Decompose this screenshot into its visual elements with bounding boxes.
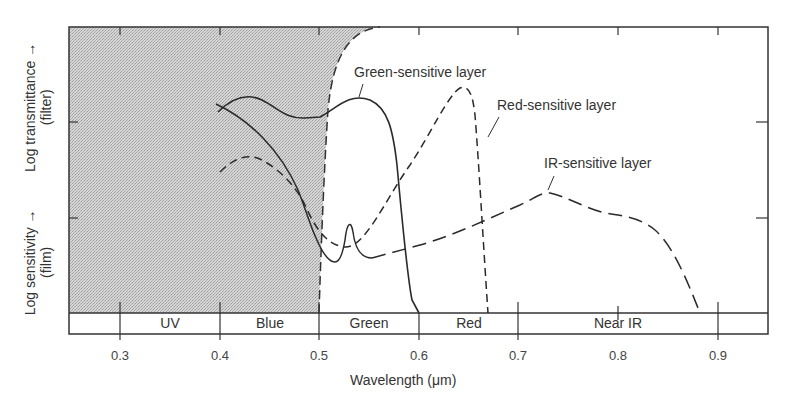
y-axis-label: Log sensitivity → (film) Log transmittan… [8, 24, 68, 334]
x-tick-0-6: 0.6 [410, 348, 428, 363]
filter-shaded-region [69, 27, 380, 313]
y-label-film: Log sensitivity → (film) [22, 209, 54, 315]
x-tick-0-4: 0.4 [211, 348, 229, 363]
y-label-filter-text: (filter) [38, 43, 54, 172]
band-uv: UV [160, 315, 179, 331]
green-layer-label: Green-sensitive layer [354, 64, 486, 80]
band-blue: Blue [256, 315, 284, 331]
x-tick-0-9: 0.9 [709, 348, 727, 363]
x-tick-0-5: 0.5 [310, 348, 328, 363]
ir-label-leader [548, 176, 554, 190]
x-axis-label: Wavelength (μm) [350, 372, 456, 388]
band-green: Green [350, 315, 389, 331]
ir-sensitive-curve [372, 193, 700, 313]
green-label-leader [359, 84, 363, 97]
y-label-sensitivity-text: Log sensitivity → [22, 209, 38, 315]
y-label-transmittance-text: Log transmittance → [22, 43, 38, 172]
y-label-filter: Log transmittance → (filter) [22, 43, 54, 172]
y-label-film-text: (film) [38, 209, 54, 315]
red-label-leader [488, 117, 499, 137]
red-layer-label: Red-sensitive layer [497, 97, 616, 113]
band-red: Red [456, 315, 482, 331]
band-near-ir: Near IR [594, 315, 642, 331]
ir-layer-label: IR-sensitive layer [544, 155, 651, 171]
chart-canvas [0, 0, 793, 401]
x-tick-0-3: 0.3 [111, 348, 129, 363]
x-tick-0-7: 0.7 [509, 348, 527, 363]
x-tick-0-8: 0.8 [609, 348, 627, 363]
